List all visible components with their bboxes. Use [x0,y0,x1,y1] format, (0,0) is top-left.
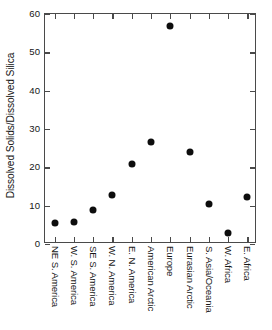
data-point [90,206,97,213]
y-axis-tick-mark-right [250,91,255,92]
x-axis-tick-mark [247,237,248,242]
y-axis-tick-mark-right [250,129,255,130]
y-axis-tick-labels: 0102030405060 [18,13,40,243]
x-axis-tick-mark-top [74,14,75,19]
y-axis-tick-mark-right [250,206,255,207]
y-axis-tick-mark-right [250,244,255,245]
data-point [186,149,193,156]
y-axis-tick-mark [45,206,50,207]
x-axis-tick-mark-top [151,14,152,19]
data-point [109,191,116,198]
x-axis-tick-label: S. Asia/Oceania [201,246,214,330]
y-axis-tick-mark-right [250,167,255,168]
y-axis-tick-label: 10 [20,199,40,210]
y-axis-tick-label: 20 [20,161,40,172]
y-axis-tick-mark [45,52,50,53]
x-axis-tick-mark-top [55,14,56,19]
x-axis-tick-labels: NE S. AmericaW. S. AmericaSE S. AmericaW… [44,246,256,330]
y-axis-tick-label: 40 [20,84,40,95]
x-axis-tick-label: W. S. America [66,246,79,330]
x-axis-tick-mark [170,237,171,242]
x-axis-tick-mark [132,237,133,242]
x-axis-tick-mark [93,237,94,242]
y-axis-tick-mark [45,129,50,130]
data-point [148,139,155,146]
x-axis-tick-mark-top [93,14,94,19]
data-point [167,23,174,30]
x-axis-tick-mark-top [228,14,229,19]
y-axis-tick-mark [45,91,50,92]
x-axis-tick-mark [190,237,191,242]
y-axis-tick-label: 0 [20,238,40,249]
scatter-plot-figure: Dissolved Solids/Dissolved Silica 010203… [0,0,272,330]
data-point [70,219,77,226]
y-axis-tick-mark [45,244,50,245]
x-axis-tick-mark-top [170,14,171,19]
x-axis-tick-mark-top [190,14,191,19]
x-axis-tick-mark [112,237,113,242]
data-point [225,230,232,237]
y-axis-tick-label: 30 [20,123,40,134]
y-axis-tick-label: 60 [20,8,40,19]
x-axis-tick-mark [151,237,152,242]
y-axis-tick-label: 50 [20,46,40,57]
y-axis-title-text: Dissolved Solids/Dissolved Silica [6,52,17,198]
x-axis-tick-label: American Arctic [144,246,157,330]
x-axis-tick-mark [209,237,210,242]
data-point [128,160,135,167]
data-point [51,220,58,227]
x-axis-tick-mark-top [132,14,133,19]
y-axis-tick-mark-right [250,14,255,15]
data-point [205,201,212,208]
x-axis-tick-mark-top [112,14,113,19]
y-axis-tick-mark [45,14,50,15]
x-axis-tick-label: Eurasian Arctic [182,246,195,330]
x-axis-tick-mark [74,237,75,242]
x-axis-tick-label: W. Africa [221,246,234,330]
x-axis-tick-label: W. N. America [105,246,118,330]
x-axis-tick-mark-top [247,14,248,19]
x-axis-tick-mark [55,237,56,242]
y-axis-tick-mark-right [250,52,255,53]
x-axis-tick-label: Europe [163,246,176,330]
x-axis-tick-label: E. N. America [124,246,137,330]
x-axis-tick-mark [228,237,229,242]
x-axis-tick-mark-top [209,14,210,19]
y-axis-tick-mark [45,167,50,168]
x-axis-tick-label: NE S. America [47,246,60,330]
plot-area [44,13,256,243]
x-axis-tick-label: E. Africa [240,246,253,330]
x-axis-tick-label: SE S. America [86,246,99,330]
data-point [244,194,251,201]
